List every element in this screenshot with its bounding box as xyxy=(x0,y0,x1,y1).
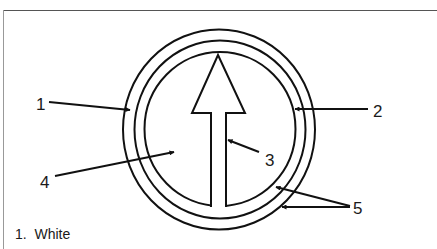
callout-line-1 xyxy=(49,102,130,110)
indicator-diagram: 1 2 3 4 5 xyxy=(0,0,437,249)
callout-label-4: 4 xyxy=(40,173,49,192)
shaft-ring-gap xyxy=(212,200,225,208)
callout-label-2: 2 xyxy=(373,102,382,121)
legend-number: 1. xyxy=(15,226,27,242)
callout-line-3 xyxy=(228,140,259,152)
legend-text: White xyxy=(34,226,70,242)
callout-label-1: 1 xyxy=(36,95,45,114)
callout-lines xyxy=(49,102,368,207)
callout-label-3: 3 xyxy=(265,151,274,170)
up-arrow-icon xyxy=(192,55,245,206)
callout-line-4 xyxy=(55,152,174,176)
callout-line-5a xyxy=(276,187,350,206)
callout-label-5: 5 xyxy=(353,199,362,218)
legend-item-1: 1. White xyxy=(15,226,70,242)
